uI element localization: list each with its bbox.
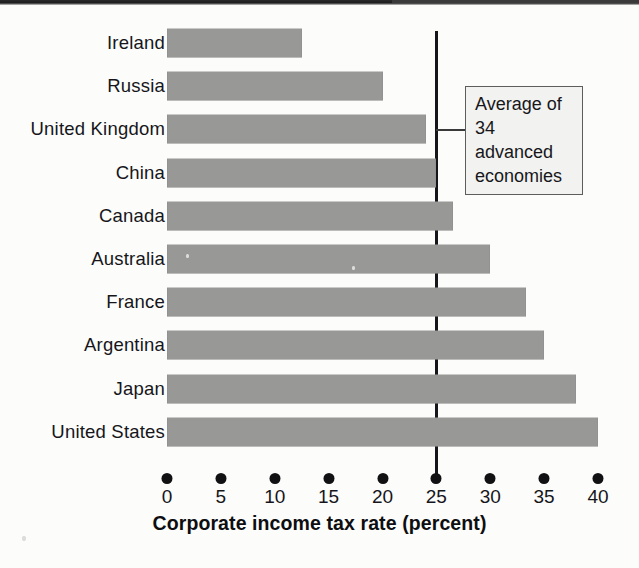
category-label: Australia: [91, 248, 165, 270]
category-label: China: [116, 162, 165, 184]
x-axis-tick-marker: [215, 473, 226, 484]
bar-row: United States: [0, 411, 639, 453]
x-axis-tick-marker: [162, 473, 173, 484]
bar: [167, 158, 436, 187]
x-axis-tick-marker: [485, 473, 496, 484]
category-label: Japan: [114, 378, 165, 400]
category-label: Ireland: [107, 32, 165, 54]
bar-row: France: [0, 281, 639, 323]
bar-row: Australia: [0, 238, 639, 280]
bar: [167, 417, 598, 446]
category-label: Argentina: [84, 334, 165, 356]
bar-row: United Kingdom: [0, 108, 639, 150]
bar: [167, 72, 383, 101]
x-axis-tick-marker: [431, 473, 442, 484]
bar-row: Canada: [0, 195, 639, 237]
category-label: Canada: [99, 205, 165, 227]
bar: [167, 288, 526, 317]
bar: [167, 115, 426, 144]
x-axis-tick-label: 15: [318, 486, 339, 508]
x-axis-tick-marker: [323, 473, 334, 484]
x-axis-tick-label: 20: [372, 486, 393, 508]
x-axis-tick-label: 35: [534, 486, 555, 508]
category-label: Russia: [107, 75, 165, 97]
x-axis-tick-marker: [377, 473, 388, 484]
category-label: United States: [51, 421, 165, 443]
x-axis-tick-marker: [539, 473, 550, 484]
scan-speckle: [352, 266, 355, 270]
scan-speckle: [186, 254, 189, 258]
bar: [167, 201, 453, 230]
bar-row: Russia: [0, 65, 639, 107]
x-axis-tick-label: 10: [264, 486, 285, 508]
bar-row: China: [0, 152, 639, 194]
bar: [167, 245, 490, 274]
scan-speckle: [22, 536, 26, 541]
bar-row: Japan: [0, 368, 639, 410]
bar: [167, 374, 576, 403]
plot-area: Average of 34 advanced economies Ireland…: [0, 0, 639, 568]
bar-row: Ireland: [0, 22, 639, 64]
x-axis-tick-label: 5: [216, 486, 227, 508]
x-axis-tick-label: 0: [162, 486, 173, 508]
category-label: United Kingdom: [31, 118, 165, 140]
x-axis-tick-label: 25: [426, 486, 447, 508]
bar: [167, 331, 544, 360]
category-label: France: [106, 291, 165, 313]
bar-row: Argentina: [0, 324, 639, 366]
x-axis-title: Corporate income tax rate (percent): [0, 512, 639, 535]
chart-figure: Average of 34 advanced economies Ireland…: [0, 0, 639, 568]
x-axis-tick-marker: [269, 473, 280, 484]
bar: [167, 29, 302, 58]
x-axis-tick-label: 30: [480, 486, 501, 508]
x-axis-tick-label: 40: [587, 486, 608, 508]
x-axis-tick-marker: [593, 473, 604, 484]
